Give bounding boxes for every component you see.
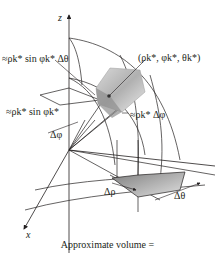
label-delta-rho: Δρ <box>104 187 115 197</box>
caption: Approximate volume = <box>0 239 215 250</box>
parallelogram-projection <box>40 88 100 105</box>
label-delta-phi: Δφ <box>50 130 62 140</box>
label-arc-sin-phi: ≈ρk* sin φk* <box>6 107 59 117</box>
sphere-outlines <box>25 38 215 212</box>
x-axis <box>24 150 69 229</box>
label-arc-dphi: ≈ρk* Δφ <box>130 110 165 120</box>
z-axis-label: z <box>58 13 62 23</box>
label-arc-dtheta: ≈ρk* sin φk* Δθ <box>2 54 69 64</box>
label-delta-theta: Δθ <box>174 191 185 201</box>
diagram-canvas <box>0 0 215 253</box>
label-point-coords: (ρk*, φk*, θk*) <box>138 53 200 63</box>
y-axis <box>69 150 215 166</box>
